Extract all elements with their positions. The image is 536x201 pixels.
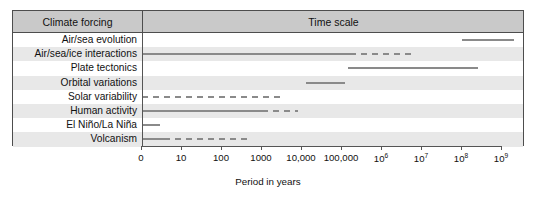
table-row: Air/sea/ice interactions (13, 47, 523, 61)
climate-forcing-timescale-figure: Climate forcing Time scale Air/sea evolu… (0, 0, 536, 201)
timescale-bar-solid (462, 39, 514, 41)
table-row: Human activity (13, 104, 523, 118)
table-row: El Niño/La Niña (13, 118, 523, 132)
timescale-bar-solid (348, 67, 478, 69)
axis-tick-label: 1000 (250, 152, 271, 163)
row-plot-cell (143, 104, 523, 118)
table-header-row: Climate forcing Time scale (13, 11, 523, 33)
axis-tick-label: 108 (454, 152, 468, 164)
timescale-bar-solid (306, 82, 345, 84)
timescale-bar-solid (142, 124, 160, 126)
timescale-bar-dashed (164, 138, 252, 140)
time-axis: 010100100010,000100,000106107108109 (12, 146, 524, 147)
axis-tick-label: 100 (213, 152, 229, 163)
axis-tick-label: 10 (176, 152, 187, 163)
axis-tick (221, 146, 222, 150)
row-plot-cell (143, 47, 523, 61)
axis-origin-line (142, 33, 143, 147)
axis-tick-exponent: 8 (465, 152, 469, 159)
axis-tick-label: 100,000 (324, 152, 359, 163)
timescale-bar-dashed (262, 110, 298, 112)
timescale-bar-solid (142, 138, 164, 140)
axis-line (141, 146, 502, 147)
axis-tick-exponent: 7 (425, 152, 429, 159)
axis-tick-label: 106 (374, 152, 388, 164)
row-plot-cell (143, 61, 523, 75)
axis-title: Period in years (0, 176, 536, 187)
row-label-volcanism: Volcanism (13, 132, 137, 146)
row-plot-cell (143, 132, 523, 146)
row-label-air-sea-evolution: Air/sea evolution (13, 33, 137, 47)
table-row: Air/sea evolution (13, 33, 523, 47)
column-header-climate-forcing: Climate forcing (13, 11, 142, 33)
axis-tick-label: 107 (414, 152, 428, 164)
axis-tick (261, 146, 262, 150)
table-row: Plate tectonics (13, 61, 523, 75)
row-label-human-activity: Human activity (13, 104, 137, 118)
row-label-plate-tectonics: Plate tectonics (13, 61, 137, 75)
axis-tick-exponent: 6 (385, 152, 389, 159)
axis-tick-exponent: 9 (505, 152, 509, 159)
table-row: Orbital variations (13, 76, 523, 90)
table-row: Volcanism (13, 132, 523, 146)
forcing-table: Climate forcing Time scale Air/sea evolu… (12, 10, 524, 146)
table-row: Solar variability (13, 90, 523, 104)
axis-tick-label: 109 (494, 152, 508, 164)
row-label-solar-variability: Solar variability (13, 90, 137, 104)
row-plot-cell (143, 118, 523, 132)
row-plot-cell (143, 90, 523, 104)
axis-tick (421, 146, 422, 150)
axis-tick (381, 146, 382, 150)
axis-tick (461, 146, 462, 150)
axis-tick (181, 146, 182, 150)
axis-tick (501, 146, 502, 150)
axis-tick (341, 146, 342, 150)
timescale-bar-dashed (142, 96, 285, 98)
axis-tick-label: 0 (138, 152, 143, 163)
timescale-bar-solid (142, 53, 350, 55)
column-header-time-scale: Time scale (143, 11, 524, 33)
axis-tick (301, 146, 302, 150)
timescale-bar-dashed (350, 53, 412, 55)
row-label-el-ni-o-la-ni-a: El Niño/La Niña (13, 118, 137, 132)
axis-tick (141, 146, 142, 150)
axis-tick-label: 10,000 (286, 152, 315, 163)
row-plot-cell (143, 76, 523, 90)
row-plot-cell (143, 33, 523, 47)
timescale-bar-solid (142, 110, 262, 112)
row-label-air-sea-ice-interactions: Air/sea/ice interactions (13, 47, 137, 61)
row-label-orbital-variations: Orbital variations (13, 76, 137, 90)
